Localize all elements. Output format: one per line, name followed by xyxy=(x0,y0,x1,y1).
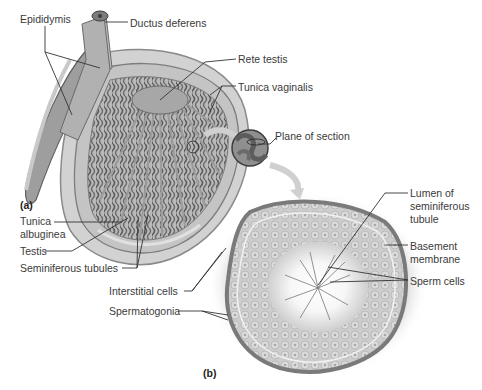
label-interstitial-cells: Interstitial cells xyxy=(109,285,178,297)
panel-label-a: (a) xyxy=(20,199,33,211)
label-tunica-vaginalis: Tunica vaginalis xyxy=(238,81,313,93)
plane-of-section-inset xyxy=(232,130,268,166)
label-plane-of-section: Plane of section xyxy=(275,130,350,142)
label-rete-testis: Rete testis xyxy=(238,53,288,65)
label-spermatogonia: Spermatogonia xyxy=(109,305,180,317)
label-tunica-albuginea-line1: Tunica xyxy=(20,215,51,227)
label-basement-line1: Basement xyxy=(410,240,457,252)
label-basement-line2: membrane xyxy=(410,253,460,265)
label-ductus-deferens: Ductus deferens xyxy=(130,17,206,29)
testis-anatomy-figure: Epididymis Ductus deferens Rete testis T… xyxy=(0,0,482,390)
label-tunica-albuginea-line2: albuginea xyxy=(20,228,66,240)
panel-label-b: (b) xyxy=(203,367,216,379)
label-lumen-line3: tubule xyxy=(410,213,439,225)
label-sperm-cells: Sperm cells xyxy=(410,275,465,287)
label-epididymis: Epididymis xyxy=(20,13,71,25)
label-testis: Testis xyxy=(20,245,47,257)
label-seminiferous-tubules: Seminiferous tubules xyxy=(20,262,118,274)
label-lumen-line2: seminiferous xyxy=(410,200,470,212)
testis-illustration xyxy=(26,11,249,265)
label-lumen-line1: Lumen of xyxy=(410,187,454,199)
